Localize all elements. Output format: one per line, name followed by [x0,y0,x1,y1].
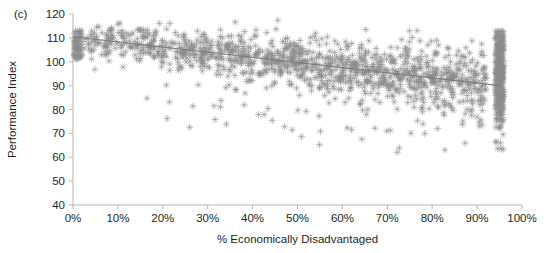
data-point [356,101,363,108]
data-point [345,95,352,102]
data-point [454,66,461,73]
data-point [163,81,170,88]
data-point [255,111,262,118]
data-point [407,130,414,137]
x-axis-title: % Economically Disadvantaged [217,233,378,245]
data-point [247,70,254,77]
data-point [358,136,365,143]
data-point [261,67,268,74]
data-point [137,27,144,34]
x-axis-tick-label: 70% [376,212,399,224]
data-point [295,55,302,62]
data-point [401,88,408,95]
data-point [373,45,380,52]
data-point [166,67,173,74]
data-point [467,74,474,81]
data-point [193,57,200,64]
data-point [178,65,185,72]
data-point [414,27,421,34]
data-point [474,113,481,120]
data-point [269,117,276,124]
data-point [433,93,440,100]
data-point [237,54,244,61]
data-point [445,81,452,88]
data-point [472,78,479,85]
data-point [108,26,115,33]
data-point [416,37,423,44]
data-point [334,41,341,48]
data-point [341,99,348,106]
data-point [493,115,500,122]
y-axis-tick-label: 60 [52,151,65,163]
data-point [478,40,485,47]
data-point [172,29,179,36]
data-point [499,131,506,138]
data-point [133,55,140,62]
data-point [330,85,337,92]
data-point [193,51,200,58]
data-point [396,89,403,96]
data-point [198,54,205,61]
data-point [203,35,210,42]
data-point [288,81,295,88]
data-point [199,59,206,66]
data-point [406,27,413,34]
data-point [355,82,362,89]
data-point [317,127,324,134]
data-point [98,51,105,58]
data-point [293,66,300,73]
data-point [200,31,207,38]
y-axis-tick-label: 90 [52,80,65,92]
x-axis-tick-label: 0% [65,212,82,224]
data-point [200,39,207,46]
data-point [289,126,296,133]
data-point [407,93,414,100]
data-point [458,53,465,60]
data-point [383,128,390,135]
data-point [223,43,230,50]
data-point [73,53,80,60]
data-point [445,52,452,59]
data-point [442,54,449,61]
data-point [361,87,368,94]
data-point [428,38,435,45]
data-point [500,146,507,153]
data-point [477,96,484,103]
data-point [495,69,502,76]
data-point [158,58,165,65]
data-point [166,60,173,67]
data-point [245,76,252,83]
data-point [362,63,369,70]
x-axis-tick-label: 20% [151,212,174,224]
data-point [462,139,469,146]
data-point [440,71,447,78]
data-point [444,44,451,51]
data-point [151,29,158,36]
data-point [211,116,218,123]
data-point [316,141,323,148]
data-point [468,106,475,113]
y-axis-tick-label: 40 [52,199,65,211]
data-point [72,28,79,35]
data-point [308,87,315,94]
data-point [232,18,239,25]
data-point [303,108,310,115]
data-point [306,80,313,87]
data-point [420,79,427,86]
data-point [493,138,500,145]
data-point [434,125,441,132]
data-point [381,76,388,83]
data-point [316,41,323,48]
data-point [187,50,194,57]
data-point [347,77,354,84]
data-point [263,84,270,91]
data-point [419,120,426,127]
data-point [231,72,238,79]
data-point [226,81,233,88]
data-point [371,51,378,58]
data-point [166,98,173,105]
data-point [120,52,127,59]
data-point [332,95,339,102]
data-point [263,29,270,36]
data-point [159,44,166,51]
